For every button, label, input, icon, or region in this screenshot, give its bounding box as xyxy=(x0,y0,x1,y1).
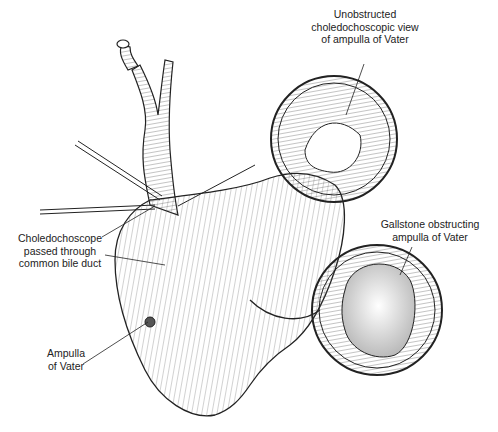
label-choledochoscope: Choledochoscope passed through common bi… xyxy=(10,232,110,270)
label-line: Ampulla xyxy=(36,347,96,360)
ampulla xyxy=(145,317,155,327)
label-gallstone: Gallstone obstructing ampulla of Vater xyxy=(375,218,485,243)
label-line: Unobstructed xyxy=(295,8,435,21)
label-line: Gallstone obstructing xyxy=(375,218,485,231)
unobstructed-view-circle xyxy=(271,76,397,202)
gallstone-view-circle xyxy=(312,245,442,375)
bile-duct xyxy=(117,40,178,215)
label-line: of ampulla of Vater xyxy=(295,33,435,46)
label-unobstructed-view: Unobstructed choledochoscopic view of am… xyxy=(295,8,435,46)
label-line: Choledochoscope xyxy=(10,232,110,245)
label-line: passed through xyxy=(10,245,110,258)
label-line: of Vater xyxy=(36,360,96,373)
label-line: choledochoscopic view xyxy=(295,21,435,34)
label-line: ampulla of Vater xyxy=(375,231,485,244)
label-line: common bile duct xyxy=(10,257,110,270)
label-ampulla: Ampulla of Vater xyxy=(36,347,96,372)
